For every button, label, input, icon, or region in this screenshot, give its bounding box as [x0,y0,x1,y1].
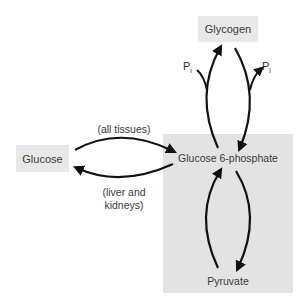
phosphate-input-branch [197,70,207,90]
arrow-g6p-to-pyruvate [236,171,250,268]
arrow-glucose-to-g6p [75,138,173,151]
arrow-g6p-to-glucose [77,164,173,177]
phosphate-output-branch [250,69,261,90]
arrow-g6p-to-glycogen [206,48,220,148]
arrow-pyruvate-to-g6p [206,171,220,268]
arrows-layer [0,0,306,307]
arrow-glycogen-to-g6p [235,48,250,148]
